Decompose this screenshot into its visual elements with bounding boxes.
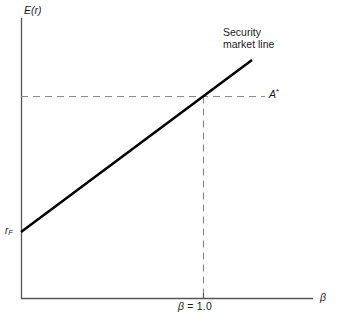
beta-tick-value: = 1.0 <box>187 300 212 312</box>
risk-free-rate-subscript: F <box>8 228 13 237</box>
asset-a-star: * <box>276 87 279 96</box>
y-axis-label: E(r) <box>24 4 42 16</box>
asset-a-label: A* <box>269 87 279 100</box>
beta-tick-label: β = 1.0 <box>178 300 212 312</box>
x-axis-label-text: β <box>320 291 326 303</box>
chart-canvas <box>0 0 342 321</box>
beta-tick-symbol: β <box>178 300 184 312</box>
annotation-line-1: Security <box>223 26 274 38</box>
security-market-line <box>21 60 252 232</box>
security-market-line-annotation: Security market line <box>223 26 274 51</box>
risk-free-rate-label: rF <box>5 225 13 238</box>
x-axis-label: β <box>320 291 326 303</box>
annotation-line-2: market line <box>223 38 274 50</box>
asset-a-symbol: A <box>269 88 276 100</box>
y-axis-label-text: E(r) <box>24 4 42 16</box>
security-market-line-figure: E(r) β rF β = 1.0 A* Security market lin… <box>0 0 342 321</box>
